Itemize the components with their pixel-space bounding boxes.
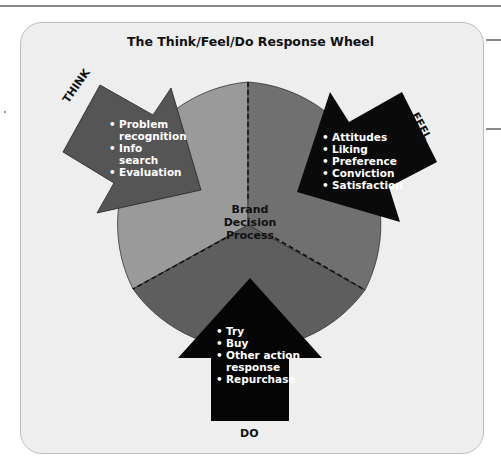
feel-list: Attitudes Liking Preference Conviction S… [322,131,403,191]
center-line-3: Process [210,229,290,242]
center-line-2: Decision [210,216,290,229]
center-line-1: Brand [210,203,290,216]
do-list: Try Buy Other actionresponse Repurchase [216,325,300,385]
feel-item: Attitudes [322,131,403,143]
think-list: Problemrecognition Infosearch Evaluation [109,118,187,178]
feel-item: Preference [322,155,403,167]
do-item: Buy [216,337,300,349]
do-label: DO [240,427,258,440]
feel-item: Conviction [322,167,403,179]
feel-item: Satisfaction [322,179,403,191]
do-item: Other actionresponse [216,349,300,373]
think-item: Evaluation [109,166,187,178]
feel-item: Liking [322,143,403,155]
center-label: Brand Decision Process [210,203,290,242]
think-item: Problemrecognition [109,118,187,142]
do-item: Try [216,325,300,337]
think-item: Infosearch [109,142,187,166]
do-item: Repurchase [216,373,300,385]
